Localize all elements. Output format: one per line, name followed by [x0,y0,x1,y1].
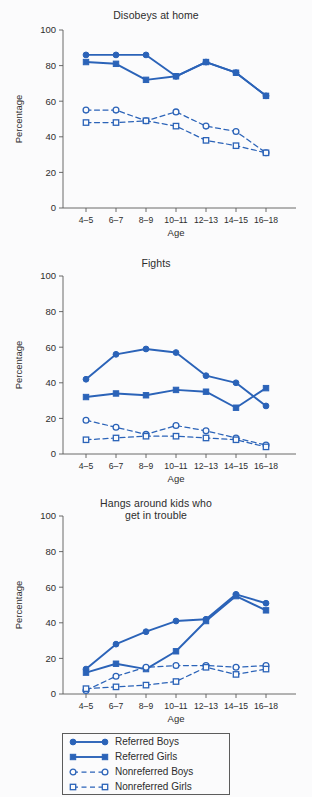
y-tick-label: 60 [45,342,56,353]
chart-title: Disobeys at home [0,10,312,22]
x-tick-label: 4–5 [79,701,94,711]
chart-title: Fights [0,258,312,270]
legend-marker [70,754,75,759]
series-marker-referred-boys [83,376,89,382]
y-axis-label: Percentage [13,581,24,630]
series-marker-referred-boys [203,373,209,379]
y-tick-label: 0 [51,688,56,699]
series-marker-referred-boys [143,52,149,58]
x-axis-label: Age [168,473,185,484]
series-marker-nonreferred-girls [233,672,238,677]
series-marker-nonreferred-girls [173,123,178,128]
legend-marker [70,739,76,745]
series-marker-nonreferred-boys [113,673,119,679]
x-tick-label: 10–11 [164,461,187,471]
series-marker-nonreferred-girls [173,679,178,684]
series-marker-referred-girls [83,670,88,675]
series-marker-referred-girls [143,393,148,398]
legend-label: Nonreferred Girls [115,781,192,792]
series-marker-nonreferred-girls [233,143,238,148]
y-axis-label: Percentage [13,95,24,144]
series-marker-referred-boys [173,618,179,624]
series-marker-nonreferred-boys [233,129,239,135]
plot-area: 100806040200Percentage4–56–78–910–1112–1… [0,254,312,500]
x-tick-label: 6–7 [109,701,124,711]
legend-label: Referred Girls [115,751,177,762]
series-marker-nonreferred-girls [263,666,268,671]
x-tick-label: 12–13 [194,215,218,225]
series-marker-referred-girls [263,385,268,390]
series-marker-nonreferred-girls [113,684,118,689]
legend: Referred BoysReferred GirlsNonreferred B… [62,733,230,795]
x-tick-label: 16–18 [254,461,278,471]
series-marker-nonreferred-boys [113,107,119,113]
series-marker-nonreferred-boys [143,664,149,670]
series-marker-nonreferred-girls [83,120,88,125]
legend-marker [70,769,76,775]
x-tick-label: 4–5 [79,215,94,225]
series-marker-referred-girls [203,618,208,623]
series-marker-referred-girls [233,593,238,598]
legend-item: Nonreferred Boys [63,764,229,779]
series-marker-referred-girls [233,405,238,410]
plot-area: 100806040200Percentage4–56–78–910–1112–1… [0,494,312,740]
x-axis-label: Age [168,713,185,724]
y-tick-label: 80 [45,546,56,557]
series-marker-nonreferred-girls [143,434,148,439]
series-marker-referred-girls [143,77,148,82]
series-marker-referred-girls [173,387,178,392]
x-tick-label: 6–7 [109,215,124,225]
x-tick-label: 14–15 [224,701,248,711]
legend-swatch [69,781,109,793]
x-tick-label: 6–7 [109,461,124,471]
x-tick-label: 10–11 [164,701,187,711]
plot-area: 100806040200Percentage4–56–78–910–1112–1… [0,8,312,254]
x-tick-label: 8–9 [139,701,154,711]
series-marker-nonreferred-boys [173,423,179,429]
y-tick-label: 60 [45,582,56,593]
series-marker-referred-girls [203,389,208,394]
chart-panel-2: Fights100806040200Percentage4–56–78–910–… [0,254,312,500]
x-axis-label: Age [168,227,185,238]
series-marker-nonreferred-girls [263,444,268,449]
y-tick-label: 20 [45,167,56,178]
y-tick-label: 100 [40,270,56,281]
x-tick-label: 10–11 [164,215,187,225]
series-line-referred-boys [86,349,266,406]
series-marker-referred-boys [143,346,149,352]
series-marker-referred-boys [113,641,119,647]
series-marker-nonreferred-boys [203,428,209,434]
series-marker-referred-boys [113,351,119,357]
series-marker-referred-girls [173,74,178,79]
x-tick-label: 8–9 [139,461,154,471]
x-tick-label: 4–5 [79,461,94,471]
legend-marker [102,739,108,745]
series-marker-referred-girls [173,649,178,654]
y-tick-label: 20 [45,413,56,424]
x-tick-label: 12–13 [194,461,218,471]
series-marker-nonreferred-boys [173,663,179,669]
legend-swatch [69,766,109,778]
series-marker-nonreferred-girls [143,118,148,123]
series-marker-referred-boys [263,403,269,409]
y-tick-label: 80 [45,306,56,317]
legend-marker [102,769,108,775]
y-tick-label: 60 [45,96,56,107]
series-marker-nonreferred-boys [83,107,89,113]
y-tick-label: 0 [51,448,56,459]
x-tick-label: 14–15 [224,215,248,225]
chart-title: Hangs around kids who get in trouble [0,498,312,521]
series-marker-nonreferred-boys [113,424,119,430]
legend-marker [70,784,75,789]
legend-item: Referred Boys [63,734,229,749]
chart-panel-1: Disobeys at home100806040200Percentage4–… [0,8,312,254]
series-marker-nonreferred-boys [173,109,179,115]
x-tick-label: 16–18 [254,701,278,711]
series-marker-nonreferred-girls [203,435,208,440]
legend-label: Nonreferred Boys [115,766,193,777]
y-tick-label: 40 [45,131,56,142]
series-marker-nonreferred-girls [113,120,118,125]
series-marker-referred-boys [233,380,239,386]
series-marker-nonreferred-girls [173,434,178,439]
series-marker-referred-girls [113,661,118,666]
